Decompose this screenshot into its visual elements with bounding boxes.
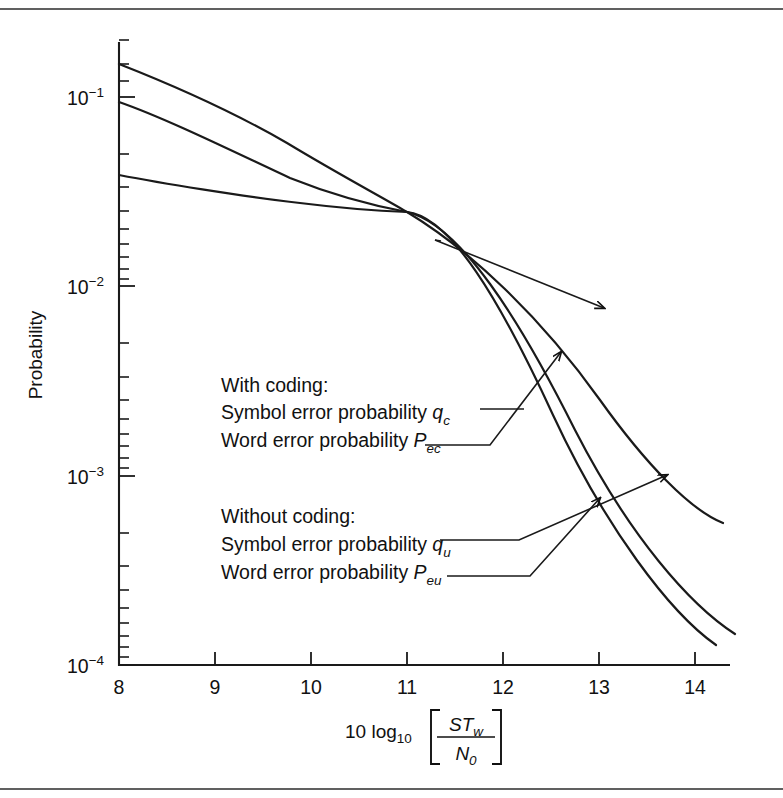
x-tick-labels: 8 9 10 11 12 13 14 [114, 676, 706, 698]
y-tick-label-1e-3: 10−3 [67, 464, 104, 488]
figure-root: 10−1 10−2 10−3 10−4 8 9 10 11 12 13 14 P… [0, 0, 783, 798]
x-tick-label-8: 8 [114, 676, 125, 698]
y-tick-label-1e-4: 10−4 [67, 653, 105, 677]
x-tick-label-12: 12 [492, 676, 514, 698]
with-coding-word-error-line: Word error probability Pec [221, 429, 441, 456]
with-coding-symbol-error-line: Symbol error probability qc [221, 401, 450, 428]
x-axis-title-numerator: STw [449, 714, 484, 739]
y-tick-label-1e-2: 10−2 [67, 274, 104, 298]
leader-qc [435, 240, 604, 308]
y-axis-title: Probability [25, 310, 46, 399]
leader-qc-stub [435, 240, 441, 241]
x-major-ticks [215, 652, 695, 665]
x-tick-label-14: 14 [684, 676, 706, 698]
x-axis-title: 10 log10 STw N0 [345, 710, 501, 768]
annotation-with-coding: With coding: Symbol error probability qc… [221, 374, 450, 456]
x-axis-title-denominator: N0 [455, 743, 477, 768]
x-tick-label-11: 11 [397, 676, 417, 698]
probability-vs-snr-chart: 10−1 10−2 10−3 10−4 8 9 10 11 12 13 14 P… [0, 0, 783, 798]
y-major-ticks [119, 97, 135, 665]
without-coding-word-error-line: Word error probability Peu [221, 561, 442, 588]
with-coding-heading: With coding: [221, 374, 328, 396]
without-coding-heading: Without coding: [221, 505, 355, 527]
x-axis-title-prefix: 10 log10 [345, 721, 412, 746]
leader-peu [447, 498, 600, 576]
curve-qu [119, 64, 723, 523]
y-tick-label-1e-1: 10−1 [67, 85, 104, 109]
x-tick-label-13: 13 [588, 676, 610, 698]
y-minor-ticks [119, 40, 129, 657]
x-tick-label-9: 9 [210, 676, 221, 698]
annotation-without-coding: Without coding: Symbol error probability… [221, 505, 451, 588]
x-tick-label-10: 10 [300, 676, 322, 698]
y-tick-labels: 10−1 10−2 10−3 10−4 [67, 85, 105, 677]
leader-qu [440, 475, 667, 540]
without-coding-symbol-error-line: Symbol error probability qu [221, 533, 451, 560]
